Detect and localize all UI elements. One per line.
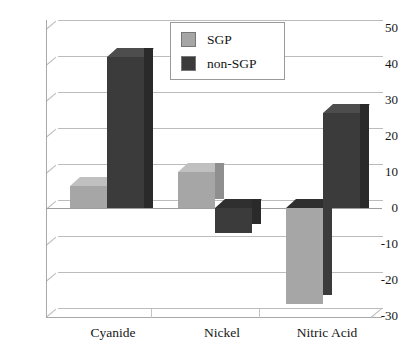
category-separator [259,309,260,318]
bar-side-face [323,199,332,295]
gridline [58,236,383,237]
bar-side-face [360,104,369,208]
x-axis-tick-label-nickel: Nickel [172,326,272,340]
bar-side-face [252,199,261,224]
axis-depth-connector [46,237,57,246]
y-axis-line [46,20,47,318]
axis-depth-connector [46,273,57,282]
legend-label-sgp: SGP [207,32,232,48]
bar-front-face [323,113,360,208]
bar-front-face [215,208,252,233]
bar-front-face [70,186,107,208]
bar-nickel-non-sgp-top [215,199,252,208]
bar-nitric-acid-sgp [286,208,323,304]
legend-swatch-non-sgp [181,56,196,71]
axis-depth-connector [46,21,57,30]
y-axis-tick-label: 50 [360,21,398,34]
axis-depth-connector [46,57,57,66]
bar-front-face [107,57,144,208]
bar-cyanide-non-sgp [107,57,144,208]
axis-depth-connector [46,165,57,174]
bar-cyanide-non-sgp-side [144,48,153,208]
legend: SGP non-SGP [170,22,285,80]
bar-side-face [144,48,153,208]
legend-label-non-sgp: non-SGP [207,56,257,72]
legend-swatch-sgp [181,32,196,47]
bar-front-face [178,172,215,208]
bar-nickel-sgp [178,172,215,208]
y-axis-tick-label: 40 [360,57,398,70]
category-separator [151,309,152,318]
bar-nickel-non-sgp-side [252,199,261,224]
bar-nickel-non-sgp [215,208,252,233]
bar-nitric-acid-non-sgp-side [360,104,369,208]
bar-nitric-acid-non-sgp [323,113,360,208]
x-axis-tick-label-nitric-acid: Nitric Acid [277,326,377,340]
y-axis-tick-label: -20 [360,273,398,286]
gridline [58,272,383,273]
axis-depth-connector [46,93,57,102]
axis-depth-connector [46,129,57,138]
bar-front-face [286,208,323,304]
bar-cyanide-sgp [70,186,107,208]
y-axis-tick-label: -10 [360,237,398,250]
floor-back-edge [58,308,383,309]
bar-chart: 50 40 30 20 10 0 -10 -20 -30 [0,0,398,354]
floor-front-edge [46,317,382,318]
bar-side-face [215,163,224,199]
bar-nickel-sgp-side [215,163,224,199]
bar-nitric-acid-sgp-top [286,199,323,208]
x-axis-tick-label-cyanide: Cyanide [63,326,163,340]
bar-nitric-acid-sgp-side [323,199,332,295]
gridline [58,20,383,21]
